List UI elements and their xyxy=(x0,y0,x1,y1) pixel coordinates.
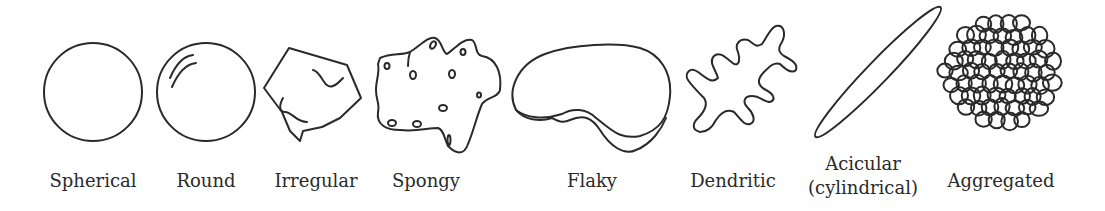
particle-shapes-diagram: Spherical Round Irregular Spongy Flaky D… xyxy=(0,0,1105,211)
label-acicular: Acicular xyxy=(825,153,901,175)
label-flaky: Flaky xyxy=(567,170,617,192)
spongy-shape xyxy=(376,38,500,153)
label-acicular-sublabel: (cylindrical) xyxy=(808,177,918,199)
label-spherical: Spherical xyxy=(49,170,136,192)
label-aggregated: Aggregated xyxy=(948,170,1055,192)
flaky-shape xyxy=(513,45,671,152)
spherical-shape xyxy=(44,43,142,141)
dendritic-shape xyxy=(687,26,797,132)
aggregated-shape xyxy=(937,15,1061,130)
irregular-shape xyxy=(264,48,361,141)
round-shape xyxy=(157,43,255,141)
label-round: Round xyxy=(176,170,235,192)
acicular-shape xyxy=(808,0,949,144)
label-dendritic: Dendritic xyxy=(690,170,776,192)
label-irregular: Irregular xyxy=(274,170,357,192)
label-spongy: Spongy xyxy=(392,170,460,192)
